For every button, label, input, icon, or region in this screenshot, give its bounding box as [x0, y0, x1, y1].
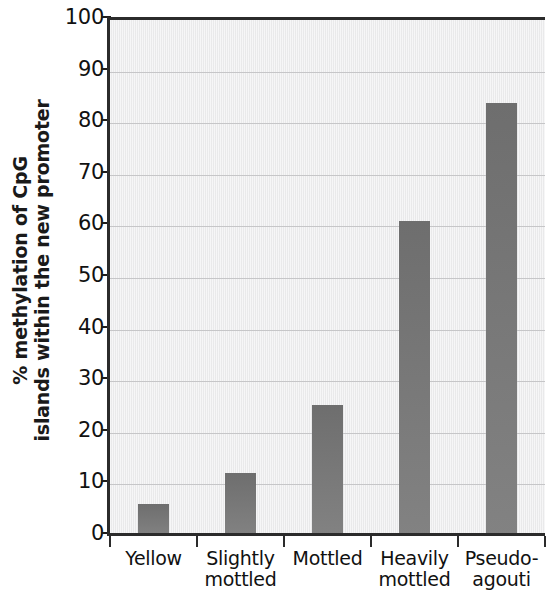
y-axis-title-line-2: islands within the new promoter	[31, 99, 53, 441]
x-axis-category-label: Mottled	[284, 548, 371, 569]
y-axis-tick-label: 100	[58, 7, 104, 28]
bar	[312, 405, 343, 536]
y-axis-tick-label: 0	[58, 523, 104, 544]
y-axis-tick-label: 20	[58, 420, 104, 441]
x-axis-tick-mark	[370, 536, 372, 547]
y-axis-tick-label: 80	[58, 110, 104, 131]
x-axis-category-label-line-1: Mottled	[284, 548, 371, 569]
y-axis-tick-label: 50	[58, 265, 104, 286]
x-axis-tick-mark	[457, 536, 459, 547]
x-axis-tick-mark	[109, 536, 111, 547]
y-axis-tick-label: 30	[58, 368, 104, 389]
x-axis-tick-mark	[283, 536, 285, 547]
gridline	[110, 123, 545, 124]
gridline	[110, 226, 545, 227]
y-axis-tick-labels: 0102030405060708090100	[58, 0, 104, 587]
x-axis-category-label-line-1: Slightly	[197, 548, 284, 569]
x-axis-category-label: Pseudo-agouti	[458, 548, 545, 589]
x-axis-category-label-line-2: mottled	[371, 569, 458, 590]
gridline	[110, 381, 545, 382]
x-axis-category-label-line-2: agouti	[458, 569, 545, 590]
bar	[486, 103, 517, 536]
plot-area	[110, 17, 545, 536]
gridline	[110, 330, 545, 331]
y-axis-title-line-1: % methylation of CpG	[9, 99, 31, 441]
y-axis-tick-label: 70	[58, 162, 104, 183]
y-axis-tick-label: 90	[58, 59, 104, 80]
x-axis-category-label-line-1: Pseudo-	[458, 548, 545, 569]
x-axis-category-label-line-2: mottled	[197, 569, 284, 590]
y-axis-tick-label: 60	[58, 213, 104, 234]
x-axis-category-labels: YellowSlightlymottledMottledHeavilymottl…	[110, 548, 545, 587]
x-axis-category-label-line-1: Heavily	[371, 548, 458, 569]
gridline	[110, 175, 545, 176]
x-axis-category-label-line-1: Yellow	[110, 548, 197, 569]
bar	[225, 473, 256, 536]
y-axis-title: % methylation of CpG islands within the …	[0, 0, 62, 540]
gridline	[110, 72, 545, 73]
y-axis-tick-label: 10	[58, 471, 104, 492]
gridline	[110, 278, 545, 279]
x-axis-category-label: Slightlymottled	[197, 548, 284, 589]
bar	[399, 221, 430, 536]
x-axis-category-label: Yellow	[110, 548, 197, 569]
y-axis-tick-label: 40	[58, 317, 104, 338]
x-axis-tick-mark	[196, 536, 198, 547]
x-axis-category-label: Heavilymottled	[371, 548, 458, 589]
bar	[138, 504, 169, 536]
x-axis-line	[107, 533, 545, 536]
